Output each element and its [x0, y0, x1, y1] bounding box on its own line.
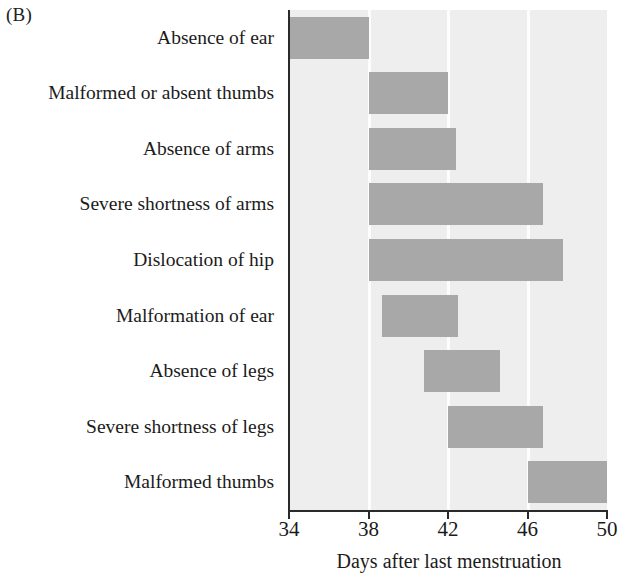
bar[interactable] [369, 72, 449, 114]
y-axis-line [288, 10, 290, 512]
category-label: Malformed or absent thumbs [0, 83, 274, 103]
x-tick-label: 50 [597, 519, 618, 540]
x-axis-title: Days after last menstruation [289, 551, 609, 571]
category-label: Absence of ear [0, 28, 274, 48]
bar[interactable] [448, 406, 543, 448]
x-tick-label: 38 [358, 519, 379, 540]
category-label: Severe shortness of arms [0, 194, 274, 214]
category-label: Absence of arms [0, 139, 274, 159]
bar[interactable] [382, 295, 458, 337]
bar[interactable] [289, 17, 369, 59]
bar[interactable] [369, 183, 544, 225]
bar[interactable] [424, 350, 500, 392]
category-label: Malformed thumbs [0, 472, 274, 492]
x-tick-label: 42 [438, 519, 459, 540]
bar[interactable] [369, 128, 456, 170]
category-label: Severe shortness of legs [0, 417, 274, 437]
plot-area [289, 10, 607, 510]
x-tick-label: 46 [517, 519, 538, 540]
bar[interactable] [528, 461, 608, 503]
category-label: Dislocation of hip [0, 250, 274, 270]
bar[interactable] [369, 239, 564, 281]
category-axis-labels: Absence of earMalformed or absent thumbs… [0, 10, 282, 510]
category-label: Malformation of ear [0, 306, 274, 326]
category-label: Absence of legs [0, 361, 274, 381]
x-tick-label: 34 [279, 519, 300, 540]
